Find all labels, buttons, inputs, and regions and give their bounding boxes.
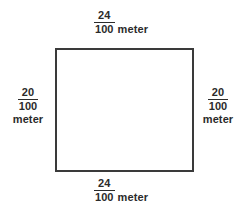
bottom-unit: meter (118, 191, 148, 203)
right-measurement: 20 100 (196, 87, 240, 112)
top-side-label: 24 100 meter (0, 10, 242, 35)
left-measurement: 20 100 (4, 87, 52, 112)
top-fraction: 24 100 (94, 10, 115, 35)
rectangle-shape (55, 48, 194, 172)
left-numerator: 20 (21, 87, 35, 99)
top-denominator: 100 (94, 24, 115, 36)
right-fraction: 20 100 (208, 87, 229, 112)
left-denominator: 100 (18, 101, 39, 113)
bottom-denominator: 100 (94, 192, 115, 204)
bottom-numerator: 24 (97, 178, 111, 190)
geometry-figure: 24 100 meter 20 100 meter 20 100 meter (0, 0, 242, 217)
left-fraction: 20 100 (18, 87, 39, 112)
bottom-side-label: 24 100 meter (0, 178, 242, 203)
top-numerator: 24 (97, 10, 111, 22)
left-side-label: 20 100 meter (4, 87, 52, 125)
bottom-fraction: 24 100 (94, 178, 115, 203)
right-numerator: 20 (211, 87, 225, 99)
bottom-measurement: 24 100 meter (0, 178, 242, 203)
top-unit: meter (118, 23, 148, 35)
left-unit: meter (4, 113, 52, 125)
right-side-label: 20 100 meter (196, 87, 240, 125)
right-unit: meter (196, 113, 240, 125)
right-denominator: 100 (208, 101, 229, 113)
top-measurement: 24 100 meter (0, 10, 242, 35)
